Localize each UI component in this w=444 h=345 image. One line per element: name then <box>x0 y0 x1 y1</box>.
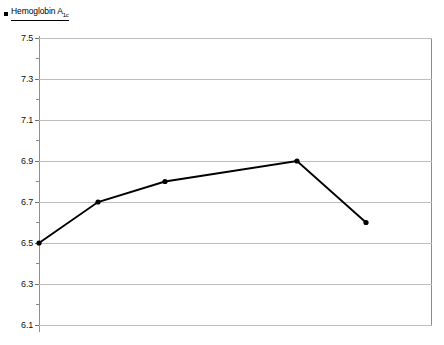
data-point <box>36 240 41 245</box>
y-axis-tick-label: 6.3 <box>21 280 33 289</box>
series-hemoglobin-a1c <box>39 38 432 326</box>
series-line <box>39 161 366 243</box>
y-axis-tick-label: 7.3 <box>21 75 33 84</box>
y-axis-tick-label: 6.7 <box>21 198 33 207</box>
y-axis-tick-label: 6.9 <box>21 157 33 166</box>
y-axis-tick-label: 6.5 <box>21 239 33 248</box>
legend-item-label: Hemoglobin A1c <box>11 6 69 21</box>
y-axis-tick-label: 7.5 <box>21 34 33 43</box>
data-point <box>363 220 368 225</box>
square-marker-icon <box>4 12 8 16</box>
chart-container: Hemoglobin A1c 7.5 7.3 7.1 6.9 6.7 6.5 6… <box>0 0 444 345</box>
series-markers <box>36 158 368 245</box>
legend-label-subscript: 1c <box>63 12 69 18</box>
y-axis-labels: 7.5 7.3 7.1 6.9 6.7 6.5 6.3 6.1 <box>0 38 33 325</box>
y-axis-tick-label: 7.1 <box>21 116 33 125</box>
chart-legend: Hemoglobin A1c <box>4 7 69 20</box>
y-axis-tick-label: 6.1 <box>21 321 33 330</box>
legend-label-main: Hemoglobin A <box>11 6 63 16</box>
data-point <box>162 179 167 184</box>
data-point <box>294 158 299 163</box>
data-point <box>95 199 100 204</box>
plot-area <box>39 38 432 325</box>
